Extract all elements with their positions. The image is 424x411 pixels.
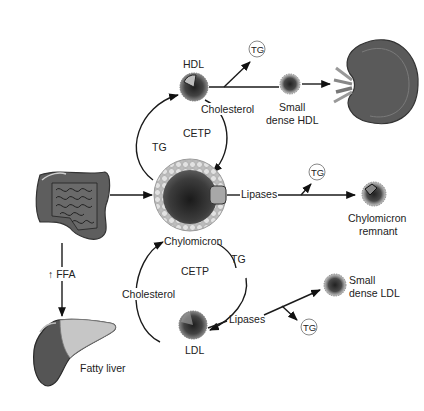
ldl-to-small-ldl-arrow <box>264 290 320 315</box>
kidney-illustration <box>334 40 418 124</box>
svg-text:TG: TG <box>251 44 264 55</box>
ldl-particle <box>179 311 207 339</box>
small-dense-ldl-label-line1: Small <box>349 274 375 286</box>
chylomicron-remnant-particle <box>362 182 386 206</box>
tg-bubble-top: TG <box>249 41 265 57</box>
ldl-label: LDL <box>185 344 204 356</box>
hdl-tg-release-arrow <box>224 62 250 87</box>
ldl-tg-release-arrow <box>282 306 297 320</box>
ffa-label: ↑ FFA <box>48 268 75 280</box>
tg-bubble-middle: TG <box>309 164 325 180</box>
svg-text:TG: TG <box>311 167 324 178</box>
svg-text:TG: TG <box>303 322 316 333</box>
fatty-liver-label: Fatty liver <box>80 362 126 374</box>
tg-bubble-bottom: TG <box>301 319 317 335</box>
hdl-particle <box>180 73 208 101</box>
chylo-tg-release-arrow <box>301 184 311 195</box>
chylomicron-remnant-label-line2: remnant <box>359 225 398 237</box>
top-cycle-cholesterol-label: Cholesterol <box>201 103 254 115</box>
chylomicron-remnant-label-line1: Chylomicron <box>348 212 407 224</box>
small-dense-hdl-label-line2: dense HDL <box>266 114 319 126</box>
bottom-cycle-cetp-label: CETP <box>181 265 209 277</box>
small-dense-hdl-particle <box>280 74 300 94</box>
hdl-label: HDL <box>183 58 204 70</box>
intestine-illustration <box>36 172 109 239</box>
top-cycle-cetp-label: CETP <box>183 127 211 139</box>
diagram-canvas: HDL TG Small dense HDL CETP TG Cholester… <box>0 0 424 411</box>
bottom-cycle-cholesterol-label: Cholesterol <box>122 288 175 300</box>
small-dense-ldl-particle <box>324 274 346 296</box>
chylomicron-label: Chylomicron <box>164 235 223 247</box>
bottom-cycle-tg-label: TG <box>231 253 246 265</box>
fatty-liver-illustration <box>34 319 116 386</box>
top-cycle-tg-label: TG <box>152 141 167 153</box>
chylomicron-particle <box>154 159 226 231</box>
chylo-lipases-label: Lipases <box>241 188 277 200</box>
small-dense-ldl-label-line2: dense LDL <box>349 287 400 299</box>
small-dense-hdl-label-line1: Small <box>279 101 305 113</box>
ldl-lipases-label: Lipases <box>229 313 265 325</box>
